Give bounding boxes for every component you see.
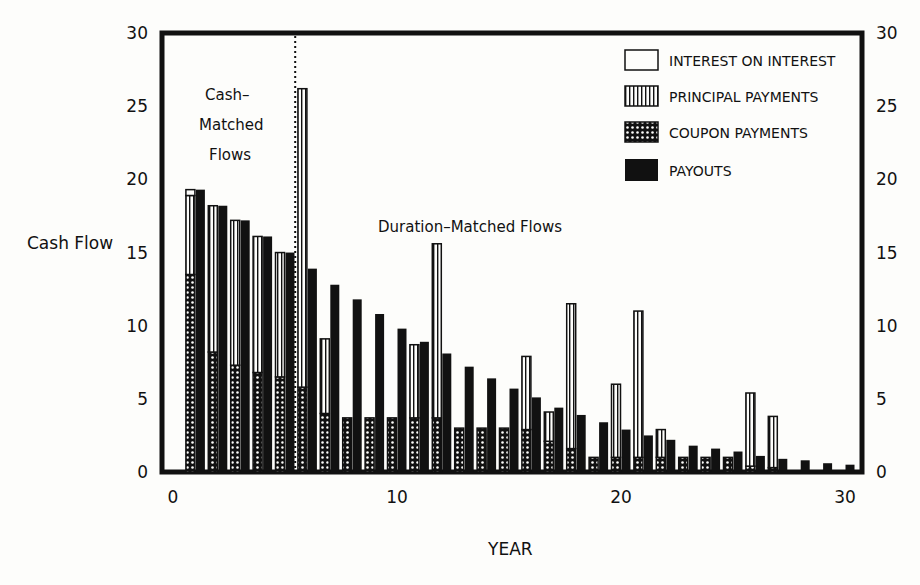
legend-label-principal: PRINCIPAL PAYMENTS bbox=[669, 89, 819, 105]
y-tick-label: 10 bbox=[126, 316, 148, 336]
principal-segment bbox=[634, 311, 643, 457]
y-tick-label-right: 25 bbox=[876, 96, 898, 116]
principal-segment bbox=[410, 345, 419, 418]
payout-bar bbox=[375, 314, 384, 472]
coupon-segment bbox=[746, 466, 755, 472]
coupon-segment bbox=[724, 457, 733, 472]
payout-bar bbox=[196, 190, 205, 472]
legend-swatch-principal bbox=[625, 86, 658, 106]
coupon-segment bbox=[208, 352, 217, 472]
x-tick-label: 20 bbox=[610, 487, 632, 507]
y-tick-label: 25 bbox=[126, 96, 148, 116]
payout-bar bbox=[846, 465, 855, 472]
coupon-segment bbox=[544, 441, 553, 472]
y-axis-right: 051015202530 bbox=[876, 23, 898, 482]
payout-bar bbox=[734, 452, 743, 472]
principal-segment bbox=[186, 195, 195, 274]
coupon-segment bbox=[320, 413, 329, 472]
y-tick-label: 15 bbox=[126, 243, 148, 263]
principal-segment bbox=[208, 206, 217, 352]
y-tick-label-right: 10 bbox=[876, 316, 898, 336]
coupon-segment bbox=[634, 457, 643, 472]
payout-bar bbox=[218, 206, 227, 472]
cash-matched-annotation-line2: Matched bbox=[199, 116, 264, 134]
principal-segment bbox=[320, 339, 329, 414]
y-tick-label-right: 15 bbox=[876, 243, 898, 263]
coupon-segment bbox=[589, 457, 598, 472]
x-tick-label: 30 bbox=[834, 487, 856, 507]
coupon-segment bbox=[567, 449, 576, 472]
x-axis: 0102030 bbox=[168, 487, 856, 507]
payout-bar bbox=[823, 463, 832, 472]
payout-bar bbox=[263, 236, 272, 472]
x-axis-label: YEAR bbox=[487, 539, 533, 559]
coupon-segment bbox=[298, 387, 307, 472]
y-tick-label: 30 bbox=[126, 23, 148, 43]
coupon-segment bbox=[410, 418, 419, 472]
cash-matched-annotation-line3: Flows bbox=[209, 146, 251, 164]
y-tick-label: 20 bbox=[126, 169, 148, 189]
coupon-segment bbox=[253, 373, 262, 472]
principal-segment bbox=[276, 253, 285, 377]
coupon-segment bbox=[477, 428, 486, 472]
principal-segment bbox=[298, 89, 307, 387]
coupon-segment bbox=[276, 377, 285, 472]
legend-label-payouts: PAYOUTS bbox=[669, 163, 732, 179]
payout-bar bbox=[554, 408, 563, 472]
cash-flow-chart: 051015202530 051015202530 0102030 Cash F… bbox=[0, 0, 920, 585]
payout-bar bbox=[330, 285, 339, 472]
principal-segment bbox=[612, 384, 621, 457]
principal-segment bbox=[432, 244, 441, 418]
payout-bar bbox=[644, 435, 653, 472]
payout-bar bbox=[532, 397, 541, 472]
y-tick-label: 0 bbox=[137, 462, 148, 482]
payout-bar bbox=[420, 342, 429, 472]
payout-bar bbox=[666, 440, 675, 472]
payout-bar bbox=[577, 415, 586, 472]
payout-bar bbox=[599, 422, 608, 472]
principal-segment bbox=[567, 304, 576, 449]
coupon-segment bbox=[500, 428, 509, 472]
payout-bar bbox=[465, 367, 474, 472]
legend: INTEREST ON INTEREST PRINCIPAL PAYMENTS … bbox=[625, 50, 836, 181]
x-tick-label: 10 bbox=[386, 487, 408, 507]
y-axis-label: Cash Flow bbox=[27, 233, 113, 253]
legend-label-coupon: COUPON PAYMENTS bbox=[669, 125, 808, 141]
y-tick-label-right: 5 bbox=[876, 389, 887, 409]
x-tick-label: 0 bbox=[168, 487, 179, 507]
payout-bar bbox=[241, 220, 250, 472]
legend-swatch-payouts bbox=[625, 159, 658, 181]
payout-bar bbox=[711, 449, 720, 472]
principal-segment bbox=[768, 416, 777, 467]
principal-segment bbox=[544, 412, 553, 441]
payout-bar bbox=[510, 389, 519, 472]
coupon-segment bbox=[679, 457, 688, 472]
y-tick-label-right: 20 bbox=[876, 169, 898, 189]
duration-matched-annotation: Duration–Matched Flows bbox=[378, 218, 562, 236]
y-axis-left: 051015202530 bbox=[126, 23, 148, 482]
coupon-segment bbox=[186, 274, 195, 472]
principal-segment bbox=[522, 356, 531, 429]
payout-bar bbox=[622, 430, 631, 472]
coupon-segment bbox=[343, 418, 352, 472]
coupon-segment bbox=[656, 457, 665, 472]
coupon-segment bbox=[365, 418, 374, 472]
coupon-segment bbox=[522, 430, 531, 472]
y-tick-label-right: 30 bbox=[876, 23, 898, 43]
principal-segment bbox=[656, 430, 665, 458]
coupon-segment bbox=[612, 457, 621, 472]
coupon-segment bbox=[455, 428, 464, 472]
payout-bar bbox=[353, 299, 362, 472]
principal-segment bbox=[231, 220, 240, 365]
coupon-segment bbox=[388, 418, 397, 472]
payout-bar bbox=[398, 329, 407, 472]
payout-bar bbox=[487, 378, 496, 472]
payout-bar bbox=[308, 269, 317, 472]
payout-bar bbox=[442, 353, 451, 472]
coupon-segment bbox=[231, 365, 240, 472]
legend-swatch-coupon bbox=[625, 122, 658, 142]
coupon-segment bbox=[701, 457, 710, 472]
payout-bar bbox=[286, 253, 295, 472]
bars-layer bbox=[186, 89, 855, 472]
principal-segment bbox=[746, 393, 755, 466]
